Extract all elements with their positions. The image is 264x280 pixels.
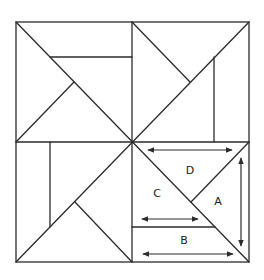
label-b: B <box>180 234 188 247</box>
quilt-block-diagram: D C A B <box>0 0 264 280</box>
label-a: A <box>214 195 222 208</box>
tl-branch-line <box>16 82 74 142</box>
label-d: D <box>186 164 194 177</box>
tr-branch-line <box>132 22 190 82</box>
bl-branch-line <box>75 202 132 262</box>
br-branch-line <box>191 142 249 202</box>
label-c: C <box>153 187 161 200</box>
